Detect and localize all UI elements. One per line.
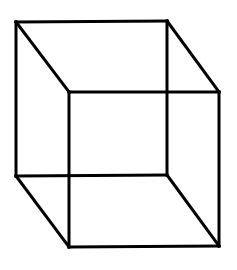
back-bottom-edge (16, 175, 167, 176)
back-top-edge (16, 21, 167, 22)
connector-top-right (167, 21, 219, 92)
connector-top-left (16, 22, 69, 92)
connector-bottom-right (167, 175, 219, 246)
diagram-canvas (0, 0, 237, 270)
front-bottom-edge (69, 246, 219, 247)
cube-edges (16, 21, 219, 247)
necker-cube-diagram (0, 0, 237, 270)
connector-bottom-left (16, 176, 69, 247)
